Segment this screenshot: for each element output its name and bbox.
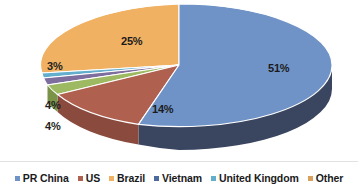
legend-item-united-kingdom[interactable]: United Kingdom <box>211 173 299 184</box>
legend-swatch-icon <box>308 176 313 181</box>
legend-swatch-icon <box>15 176 20 181</box>
chart-legend: PR China US Brazil Vietnam United Kingdo… <box>0 163 358 193</box>
legend-item-other[interactable]: Other <box>308 173 344 184</box>
legend-swatch-icon <box>211 176 216 181</box>
legend-divider <box>0 161 358 162</box>
data-label-other: 25% <box>121 36 142 47</box>
data-label-united-kingdom: 3% <box>47 61 63 72</box>
legend-label: United Kingdom <box>219 173 299 184</box>
data-label-brazil: 4% <box>45 121 61 132</box>
legend-label: PR China <box>23 173 69 184</box>
data-label-us: 14% <box>152 104 173 115</box>
pie-chart: 51% 25% 14% 3% 4% 4% PR China US Brazil … <box>0 0 358 193</box>
pie-graphic <box>26 4 332 156</box>
data-label-vietnam: 4% <box>45 100 61 111</box>
legend-label: Vietnam <box>162 173 202 184</box>
legend-item-us[interactable]: US <box>78 173 100 184</box>
plot-area: 51% 25% 14% 3% 4% 4% <box>0 0 358 160</box>
data-label-pr-china: 51% <box>268 63 289 74</box>
legend-swatch-icon <box>78 176 83 181</box>
legend-swatch-icon <box>154 176 159 181</box>
legend-item-vietnam[interactable]: Vietnam <box>154 173 202 184</box>
legend-label: US <box>86 173 100 184</box>
legend-item-pr-china[interactable]: PR China <box>15 173 69 184</box>
legend-swatch-icon <box>109 176 114 181</box>
legend-label: Other <box>316 173 344 184</box>
legend-label: Brazil <box>117 173 145 184</box>
legend-item-brazil[interactable]: Brazil <box>109 173 145 184</box>
